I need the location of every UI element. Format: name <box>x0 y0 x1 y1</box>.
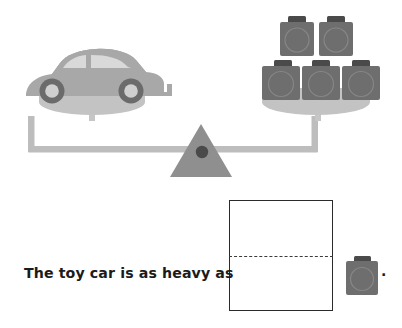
weight-tab <box>274 60 292 67</box>
right-hanger <box>312 116 319 150</box>
weight-tab <box>327 16 345 23</box>
weight-icon <box>319 16 353 56</box>
weight-icon <box>262 60 300 100</box>
weight-stack-bottom-row <box>262 60 380 100</box>
weight-icon <box>342 60 380 100</box>
car-front-hub <box>124 84 138 98</box>
weight-icon <box>302 60 340 100</box>
weight-tab <box>352 60 370 67</box>
left-hanger <box>28 116 35 150</box>
balance-scale <box>0 0 402 200</box>
question-sentence: The toy car is as heavy as <box>24 266 234 280</box>
scale-beam <box>28 146 318 153</box>
toy-car-icon <box>26 49 172 104</box>
sentence-terminator: . <box>381 264 386 278</box>
worksheet-page: The toy car is as heavy as . <box>0 0 402 328</box>
weight-icon <box>345 255 379 297</box>
weight-icon <box>280 16 314 56</box>
weight-tab <box>288 16 306 23</box>
question-sentence-row: The toy car is as heavy as <box>24 253 396 293</box>
pivot-dot <box>196 146 208 158</box>
car-rear-hub <box>45 84 59 98</box>
weight-tab <box>312 60 330 67</box>
weight-stack-top-row <box>280 16 353 56</box>
